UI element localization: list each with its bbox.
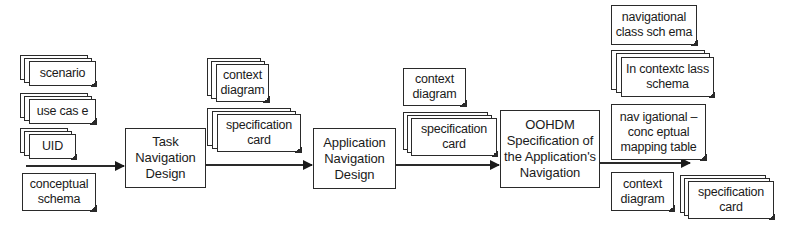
output-context-diagram: context diagram: [611, 172, 674, 211]
diagram-canvas: scenario use cas e UID conceptual schema…: [0, 0, 793, 231]
task-context-diagram: context diagram: [216, 64, 269, 102]
input-uid: UID: [29, 134, 76, 159]
output-navigational-conceptual-mapping-table: nav igational – conc eptual mapping tabl…: [611, 104, 706, 160]
process-oohdm-specification: OOHDM Specification of the Application's…: [500, 110, 600, 188]
input-conceptual-schema: conceptual schema: [22, 173, 96, 211]
input-use-case: use cas e: [29, 99, 96, 124]
task-specification-card: specification card: [217, 114, 301, 152]
process-application-navigation-design: Application Navigation Design: [313, 128, 396, 189]
output-specification-card: specification card: [688, 181, 774, 219]
process-task-navigation-design: Task Navigation Design: [125, 128, 206, 188]
output-in-context-class-schema: In contextc lass schema: [621, 57, 714, 97]
input-scenario: scenario: [29, 61, 96, 86]
app-specification-card: specification card: [411, 118, 497, 156]
app-context-diagram: context diagram: [403, 68, 466, 106]
output-navigational-class-schema: navigational class sch ema: [611, 5, 697, 45]
